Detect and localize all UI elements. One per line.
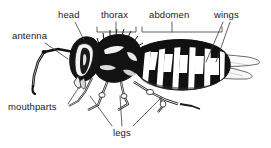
label-wings: wings (214, 9, 239, 20)
label-legs: legs (113, 127, 131, 138)
leader-wings (206, 22, 230, 62)
label-abdomen: abdomen (149, 9, 189, 20)
leader-head (75, 22, 84, 40)
label-thorax: thorax (101, 9, 128, 20)
wasp-anatomy-figure: antenna head thorax abdomen wings mouthp… (0, 0, 271, 148)
label-mouthparts: mouthparts (8, 101, 57, 112)
bracket-abdomen (142, 22, 222, 32)
leader-legs (90, 96, 161, 126)
label-antenna: antenna (12, 30, 47, 41)
leader-mouthparts (68, 87, 79, 104)
leader-antenna (45, 43, 68, 59)
label-head: head (58, 9, 80, 20)
annotation-overlay (0, 0, 271, 148)
bracket-thorax (97, 22, 136, 32)
